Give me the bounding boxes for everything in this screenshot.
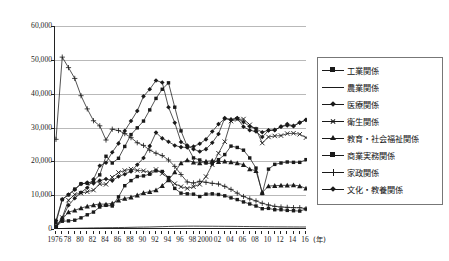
x-tick-mark	[224, 231, 225, 234]
legend-item-6[interactable]: 商業実務関係	[322, 147, 439, 164]
x-tick-mark	[74, 231, 75, 234]
x-tick-mark	[105, 231, 106, 234]
x-tick-mark	[68, 231, 69, 234]
x-tick-mark	[286, 231, 287, 234]
x-tick-mark	[255, 231, 256, 234]
series-6	[55, 81, 307, 224]
x-tick-mark	[249, 231, 250, 234]
x-tick-mark	[93, 231, 94, 234]
legend-item-label: 商業実務関係	[347, 151, 395, 161]
x-tick-mark	[174, 231, 175, 234]
x-tick-label: 84	[99, 235, 111, 244]
x-tick-mark	[61, 231, 62, 234]
x-tick-mark	[211, 231, 212, 234]
x-tick-mark	[136, 231, 137, 234]
x-tick-mark	[243, 231, 244, 234]
legend-item-label: 教育・社会福祉関係	[347, 134, 419, 144]
legend-item-label: 工業関係	[347, 66, 379, 76]
legend-marker-icon	[322, 150, 344, 161]
x-tick-mark	[205, 231, 206, 234]
x-tick-label: 08	[249, 235, 261, 244]
x-tick-mark	[218, 231, 219, 234]
legend-item-label: 農業関係	[347, 83, 379, 93]
x-axis-unit-label: (年)	[313, 235, 326, 244]
y-tick-mark	[51, 229, 54, 230]
x-tick-label: 10	[262, 235, 274, 244]
x-tick-label: 14	[287, 235, 299, 244]
series-2	[56, 226, 306, 229]
x-tick-label: 80	[74, 235, 86, 244]
x-tick-mark	[149, 231, 150, 234]
legend-item-3[interactable]: 医療関係	[322, 96, 439, 113]
y-tick-label: 60,000	[4, 22, 52, 30]
x-tick-mark	[180, 231, 181, 234]
legend-item-2[interactable]: 農業関係	[322, 79, 439, 96]
x-tick-label: 16	[299, 235, 311, 244]
x-tick-label: 88	[124, 235, 136, 244]
x-tick-mark	[55, 231, 56, 234]
x-tick-label: 02	[212, 235, 224, 244]
legend-marker-icon	[322, 65, 344, 76]
x-tick-label: 78	[62, 235, 74, 244]
legend-item-4[interactable]: 衛生関係	[322, 113, 439, 130]
legend-item-5[interactable]: 教育・社会福祉関係	[322, 130, 439, 147]
x-tick-mark	[274, 231, 275, 234]
legend-item-7[interactable]: 家政関係	[322, 164, 439, 181]
x-tick-mark	[168, 231, 169, 234]
series-lines	[55, 26, 307, 229]
x-tick-mark	[99, 231, 100, 234]
x-tick-mark	[230, 231, 231, 234]
x-tick-label: 96	[174, 235, 186, 244]
legend-item-8[interactable]: 文化・教養関係	[322, 181, 439, 198]
x-axis: 1976788082848688909294969820000204060810…	[0, 231, 449, 247]
x-tick-mark	[280, 231, 281, 234]
x-tick-label: 94	[162, 235, 174, 244]
x-tick-mark	[268, 231, 269, 234]
x-tick-mark	[293, 231, 294, 234]
x-tick-mark	[261, 231, 262, 234]
plot-area	[54, 26, 306, 229]
x-tick-label: 04	[224, 235, 236, 244]
x-tick-mark	[305, 231, 306, 234]
x-tick-label: 86	[112, 235, 124, 244]
legend-item-label: 文化・教養関係	[347, 185, 403, 195]
legend-marker-icon	[322, 167, 344, 178]
x-tick-label: 12	[274, 235, 286, 244]
x-tick-label: 82	[87, 235, 99, 244]
x-tick-label: 06	[237, 235, 249, 244]
x-tick-mark	[130, 231, 131, 234]
legend-item-label: 医療関係	[347, 100, 379, 110]
legend-marker-icon	[322, 184, 344, 195]
legend-marker-icon	[322, 99, 344, 110]
x-tick-mark	[118, 231, 119, 234]
legend-marker-icon	[322, 82, 344, 93]
x-tick-mark	[199, 231, 200, 234]
legend-item-label: 衛生関係	[347, 117, 379, 127]
x-tick-label: 92	[149, 235, 161, 244]
x-tick-mark	[299, 231, 300, 234]
y-tick-label: 30,000	[4, 124, 52, 132]
legend-item-1[interactable]: 工業関係	[322, 62, 439, 79]
x-tick-mark	[186, 231, 187, 234]
legend-marker-icon	[322, 116, 344, 127]
chart-legend: 工業関係農業関係医療関係衛生関係教育・社会福祉関係商業実務関係家政関係文化・教養…	[317, 57, 443, 205]
x-tick-mark	[193, 231, 194, 234]
x-tick-label: 90	[137, 235, 149, 244]
x-tick-mark	[111, 231, 112, 234]
x-tick-mark	[124, 231, 125, 234]
y-tick-label: 10,000	[4, 191, 52, 199]
x-tick-mark	[86, 231, 87, 234]
y-tick-label: 40,000	[4, 90, 52, 98]
legend-item-label: 家政関係	[347, 168, 379, 178]
y-tick-label: 20,000	[4, 157, 52, 165]
x-tick-mark	[80, 231, 81, 234]
legend-marker-icon	[322, 133, 344, 144]
x-tick-mark	[161, 231, 162, 234]
y-tick-label: 50,000	[4, 56, 52, 64]
y-axis: 010,00020,00030,00040,00050,00060,000	[0, 0, 52, 261]
line-chart: 010,00020,00030,00040,00050,00060,000 19…	[0, 0, 449, 261]
x-tick-mark	[143, 231, 144, 234]
x-tick-mark	[155, 231, 156, 234]
x-tick-mark	[236, 231, 237, 234]
